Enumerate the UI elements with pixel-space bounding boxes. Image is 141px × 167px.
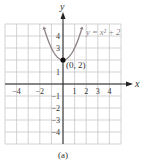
svg-text:−2: −2 <box>51 104 60 113</box>
svg-text:−4: −4 <box>12 87 21 96</box>
svg-text:y = x² + 2: y = x² + 2 <box>85 27 121 37</box>
svg-text:2: 2 <box>84 87 88 96</box>
svg-text:−3: −3 <box>51 116 60 125</box>
svg-text:y: y <box>59 1 65 12</box>
svg-text:−1: −1 <box>51 92 60 101</box>
svg-text:3: 3 <box>96 87 100 96</box>
axes: xy <box>5 1 140 144</box>
parabola-graph: xy −4−21234431−1−2−3−4 y = x² + 2 (0, 2) <box>0 0 141 150</box>
svg-text:x: x <box>134 78 140 89</box>
figure-caption: (a) <box>0 150 126 160</box>
svg-text:4: 4 <box>56 32 60 41</box>
svg-text:4: 4 <box>107 87 111 96</box>
svg-text:−4: −4 <box>51 128 60 137</box>
svg-text:−2: −2 <box>36 87 45 96</box>
vertex-annotation: (0, 2) <box>60 57 85 70</box>
svg-text:3: 3 <box>56 44 60 53</box>
svg-text:1: 1 <box>73 87 77 96</box>
svg-text:1: 1 <box>56 68 60 77</box>
svg-text:(0, 2): (0, 2) <box>66 60 86 70</box>
